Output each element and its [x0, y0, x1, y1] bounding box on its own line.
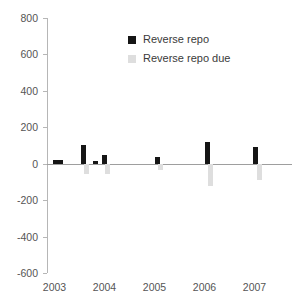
y-axis-tick	[43, 273, 47, 274]
legend-swatch-icon	[128, 55, 136, 63]
y-axis-tick	[43, 54, 47, 55]
y-axis-tick	[43, 91, 47, 92]
x-axis-tick-label: 2003	[43, 282, 66, 293]
bar	[208, 164, 213, 187]
legend-item: Reverse repo due	[128, 49, 278, 68]
bar	[257, 164, 262, 181]
bar	[105, 164, 110, 175]
bar	[205, 142, 210, 164]
legend-item-label: Reverse repo	[143, 34, 209, 45]
y-axis-tick	[43, 18, 47, 19]
y-axis-tick-label: 0	[2, 159, 38, 170]
y-axis-tick	[43, 164, 47, 165]
y-axis-tick-label: -600	[2, 268, 38, 279]
bar	[58, 160, 63, 164]
bar	[253, 147, 258, 163]
bar	[102, 155, 107, 164]
y-axis-tick-label: 800	[2, 13, 38, 24]
chart-legend: Reverse repoReverse repo due	[128, 30, 278, 68]
x-axis-tick-label: 2006	[193, 282, 216, 293]
y-axis-tick-label: -200	[2, 195, 38, 206]
y-axis-tick-label: -400	[2, 232, 38, 243]
bar	[81, 145, 86, 164]
y-axis-tick-label: 400	[2, 86, 38, 97]
y-axis-tick	[43, 127, 47, 128]
y-axis-tick-label: 600	[2, 49, 38, 60]
y-axis-tick	[43, 200, 47, 201]
x-axis-tick-label: 2004	[93, 282, 116, 293]
bar	[84, 164, 89, 174]
x-axis-tick-label: 2007	[243, 282, 266, 293]
bar-chart: 8006004002000-200-400-600 20032004200520…	[0, 0, 304, 296]
y-axis-line	[47, 18, 48, 273]
bar	[158, 164, 163, 170]
legend-swatch-icon	[128, 36, 136, 44]
legend-item: Reverse repo	[128, 30, 278, 49]
legend-item-label: Reverse repo due	[143, 53, 230, 64]
y-axis-tick-label: 200	[2, 122, 38, 133]
y-axis-tick	[43, 237, 47, 238]
x-axis-tick-label: 2005	[143, 282, 166, 293]
bar	[93, 161, 98, 164]
